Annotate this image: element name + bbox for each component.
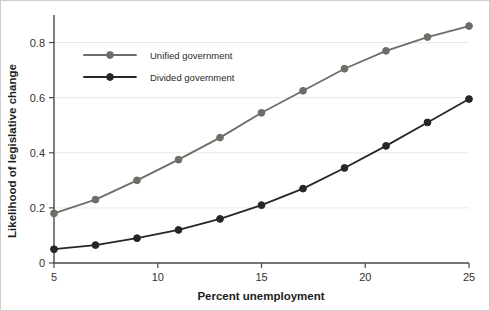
data-point (258, 109, 265, 116)
series-line-2 (54, 99, 469, 249)
y-tick-label-4: 0.8 (30, 37, 45, 49)
data-point (383, 47, 390, 54)
data-point (92, 242, 99, 249)
data-point (217, 134, 224, 141)
chart-figure: 510152025 00.20.40.60.8 Unified governme… (0, 0, 490, 311)
series-1 (51, 23, 473, 217)
data-point (424, 119, 431, 126)
x-tick-label-1: 10 (152, 271, 164, 283)
data-point (466, 96, 473, 103)
legend-label-2: Divided government (150, 72, 235, 83)
chart-legend: Unified governmentDivided government (84, 50, 235, 83)
data-point (51, 210, 58, 217)
data-point (175, 156, 182, 163)
data-series-layer (51, 23, 473, 253)
legend-marker-2 (107, 74, 114, 81)
y-axis-ticks: 00.20.40.60.8 (30, 37, 54, 269)
legend-label-1: Unified government (150, 50, 233, 61)
gridlines (54, 43, 469, 208)
data-point (341, 65, 348, 72)
line-chart: 510152025 00.20.40.60.8 Unified governme… (1, 1, 490, 311)
y-tick-label-2: 0.4 (30, 147, 45, 159)
y-tick-label-1: 0.2 (30, 202, 45, 214)
data-point (134, 235, 141, 242)
data-point (51, 246, 58, 253)
y-tick-label-3: 0.6 (30, 92, 45, 104)
y-axis-title: Likelihood of legislative change (6, 64, 18, 238)
series-2 (51, 96, 473, 253)
data-point (424, 34, 431, 41)
x-tick-label-2: 15 (255, 271, 267, 283)
data-point (92, 196, 99, 203)
data-point (175, 227, 182, 234)
data-point (134, 177, 141, 184)
axis-lines (54, 15, 469, 263)
x-tick-label-0: 5 (51, 271, 57, 283)
data-point (217, 216, 224, 223)
x-axis-title: Percent unemployment (197, 290, 324, 302)
data-point (383, 142, 390, 149)
data-point (300, 87, 307, 94)
data-point (300, 185, 307, 192)
x-axis-ticks: 510152025 (51, 263, 475, 283)
data-point (466, 23, 473, 30)
x-tick-label-3: 20 (359, 271, 371, 283)
data-point (341, 165, 348, 172)
x-tick-label-4: 25 (463, 271, 475, 283)
data-point (258, 202, 265, 209)
legend-marker-1 (107, 52, 114, 59)
y-tick-label-0: 0 (39, 257, 45, 269)
